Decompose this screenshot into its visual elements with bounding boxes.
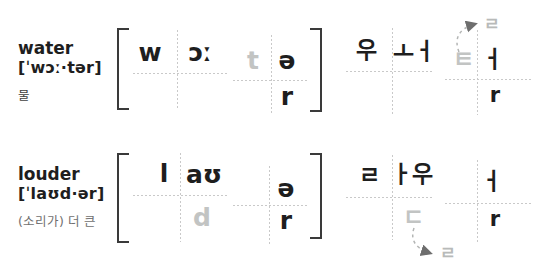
phoneme-flapped-d: d xyxy=(193,205,211,230)
grid-line-horizontal xyxy=(233,205,307,206)
phoneme-vowel: ə xyxy=(278,176,295,201)
grid-line-horizontal xyxy=(445,203,533,204)
syllable-bracket-open xyxy=(117,28,129,110)
word-block: louder [ˈlaʊd·ər] (소리가) 더 큰 xyxy=(18,164,104,230)
grid-line-vertical xyxy=(180,153,181,242)
hangul-vowel: ㅗㅓ xyxy=(393,40,435,63)
hangul-coda-r: r xyxy=(490,85,500,106)
flap-arrow-icon xyxy=(449,14,491,58)
word-block: water [ˈwɔː·tər] 물 xyxy=(18,38,102,104)
syllable-bracket-close xyxy=(310,153,322,239)
syllable-bracket-close xyxy=(310,28,322,112)
phoneme-vowel: ɔː xyxy=(188,40,211,65)
grid-line-horizontal xyxy=(133,73,227,74)
korean-meaning: 물 xyxy=(18,85,102,104)
pronunciation-diagram: water [ˈwɔː·tər] 물 w ɔː t ə r 우 ㅗㅓ ㅌ ㅓ r… xyxy=(0,0,536,270)
phoneme-flapped-t: t xyxy=(247,48,259,73)
hangul-coda-r: r xyxy=(490,209,500,230)
syllable-bracket-open xyxy=(117,153,129,243)
grid-line-vertical xyxy=(177,30,178,108)
grid-line-horizontal xyxy=(346,197,432,198)
headword: water xyxy=(18,38,102,58)
grid-line-horizontal xyxy=(445,79,533,80)
grid-line-horizontal xyxy=(233,80,307,81)
hangul-onset: ㄹ xyxy=(359,164,380,187)
headword: louder xyxy=(18,164,104,184)
grid-line-vertical xyxy=(477,160,478,242)
ipa-transcription: [ˈlaʊd·ər] xyxy=(18,184,104,203)
phoneme-vowel: ə xyxy=(279,48,296,73)
phoneme-onset: l xyxy=(160,161,169,186)
grid-line-vertical xyxy=(271,35,272,115)
phoneme-coda: r xyxy=(280,208,292,233)
grid-line-horizontal xyxy=(346,71,432,72)
phoneme-coda: r xyxy=(281,84,293,109)
korean-meaning: (소리가) 더 큰 xyxy=(18,211,104,230)
ipa-transcription: [ˈwɔː·tər] xyxy=(18,58,102,77)
hangul-vowel: ㅏ우 xyxy=(391,163,433,186)
hangul-onset: 우 xyxy=(356,39,377,62)
hangul-vowel: ㅓ xyxy=(481,170,502,193)
flap-arrow-icon xyxy=(404,224,446,260)
phoneme-vowel: aʊ xyxy=(186,162,222,187)
phoneme-onset: w xyxy=(138,40,161,65)
grid-line-horizontal xyxy=(133,195,227,196)
